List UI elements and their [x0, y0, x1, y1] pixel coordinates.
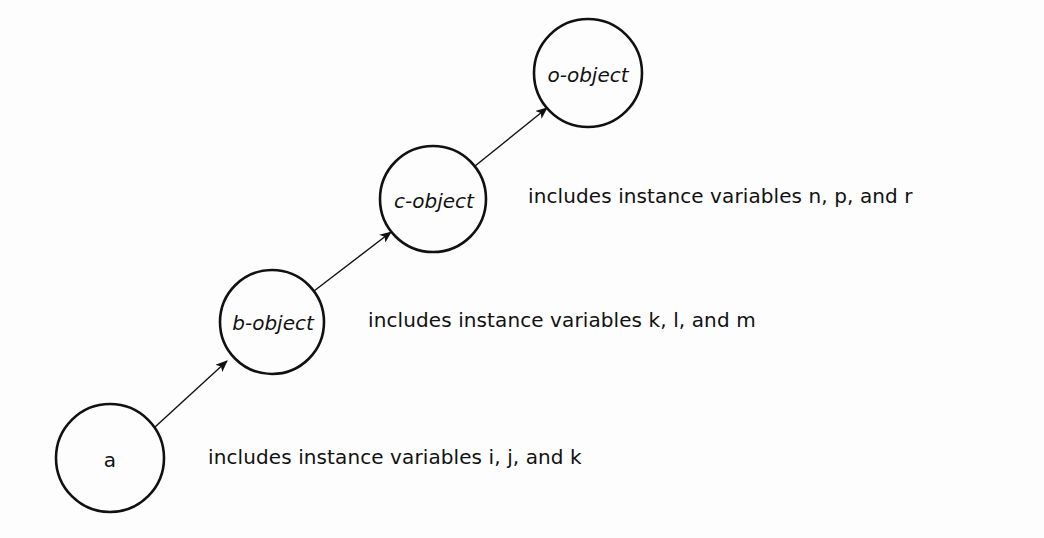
edge-b-object-to-c-object	[314, 232, 391, 291]
node-c-object-description: includes instance variables n, p, and r	[528, 184, 913, 208]
node-c-object-label: c-object	[394, 189, 474, 213]
node-a-label: a	[104, 448, 116, 472]
node-a-description: includes instance variables i, j, and k	[208, 445, 582, 469]
edge-c-object-to-o-object	[475, 108, 547, 166]
node-o-object-label: o-object	[547, 63, 628, 87]
node-b-object-description: includes instance variables k, l, and m	[368, 308, 756, 332]
node-b-object-label: b-object	[232, 311, 314, 335]
edge-a-to-b-object	[155, 361, 227, 427]
